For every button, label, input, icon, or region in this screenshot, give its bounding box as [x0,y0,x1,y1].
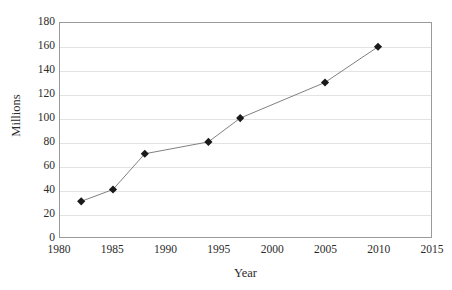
x-axis-tick-label: 1990 [136,244,196,256]
y-axis-tick-label: 80 [9,136,55,148]
y-axis-tick-label: 160 [9,40,55,52]
y-axis-tick-label: 60 [9,160,55,172]
y-axis-tick-label: 0 [9,232,55,244]
x-axis-tick-label: 2000 [242,244,302,256]
plot-area [59,22,432,238]
data-point-marker [321,78,329,86]
y-axis-tick-label: 40 [9,184,55,196]
x-axis-tick-label: 2005 [295,244,355,256]
x-axis-tick-label: 1985 [82,244,142,256]
line-chart: Millions 020406080100120140160180 198019… [0,0,452,290]
data-point-marker [236,114,244,122]
x-axis-title: Year [59,266,432,281]
x-axis-tick-label: 1995 [189,244,249,256]
clipped-header-text [95,0,215,6]
series-line [81,47,378,202]
y-axis-tick-label: 100 [9,112,55,124]
data-point-marker [77,197,85,205]
y-axis-tick-label: 180 [9,16,55,28]
y-axis-tick-label: 20 [9,208,55,220]
y-axis-tick-label: 120 [9,88,55,100]
x-axis-tick-label: 2015 [402,244,452,256]
y-axis-tick-label: 140 [9,64,55,76]
x-axis-tick-label: 2010 [349,244,409,256]
x-axis-tick-labels: 19801985199019952000200520102015 [59,244,432,260]
data-point-marker [374,43,382,51]
x-axis-tick-label: 1980 [29,244,89,256]
data-point-marker [204,138,212,146]
y-axis-tick-labels: 020406080100120140160180 [7,22,55,238]
data-series-layer [60,23,431,237]
